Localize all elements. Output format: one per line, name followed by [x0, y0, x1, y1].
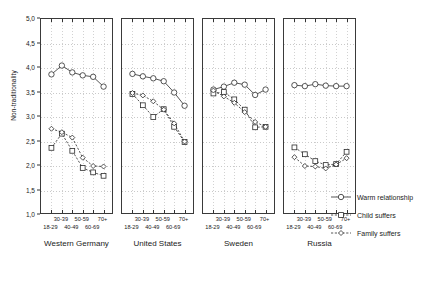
data-point-marker [49, 126, 54, 131]
x-axis-tick-label: 30-39 [135, 216, 149, 222]
legend-marker-circle-icon [330, 191, 352, 203]
data-point-marker [344, 83, 349, 88]
series-layer [41, 19, 114, 215]
series-layer [122, 19, 195, 215]
data-point-marker [292, 145, 297, 150]
data-point-marker [140, 103, 145, 108]
panel-western-germany [40, 18, 113, 214]
series-line-child-suffers [51, 134, 103, 176]
data-point-marker [49, 145, 54, 150]
data-point-marker [161, 79, 166, 84]
data-point-marker [339, 213, 344, 218]
y-axis-tick-label: 4,0 [26, 64, 35, 71]
data-point-marker [80, 73, 85, 78]
x-axis-tick-label: 70+ [260, 216, 270, 222]
legend-item: Warm relationship [330, 188, 413, 206]
x-axis-labels: 18-2930-3940-4950-5960-6970+ [202, 216, 275, 238]
legend-item: Child suffers [330, 206, 413, 224]
data-point-marker [221, 84, 226, 89]
data-point-marker [182, 103, 187, 108]
panel-united-states [121, 18, 194, 214]
data-point-marker [80, 166, 85, 171]
legend-item: Family suffers [330, 224, 413, 242]
data-point-marker [70, 70, 75, 75]
data-point-marker [344, 156, 349, 161]
data-point-marker [344, 149, 349, 154]
series-line-child-suffers [132, 94, 184, 142]
chart-legend: Warm relationshipChild suffersFamily suf… [330, 188, 413, 242]
data-point-marker [302, 164, 307, 169]
chart-figure: Non-traditionality 1,01,52,02,53,03,54,0… [0, 0, 435, 286]
x-axis-tick-label: 18-29 [205, 224, 219, 230]
x-axis-tick-label: 40-49 [64, 224, 78, 230]
panel-title: United States [121, 239, 194, 248]
data-point-marker [323, 83, 328, 88]
data-point-marker [292, 82, 297, 87]
x-axis-tick-label: 70+ [98, 216, 108, 222]
data-point-marker [313, 81, 318, 86]
plot-area [41, 19, 112, 213]
y-axis-ticks: 1,01,52,02,53,03,54,04,55,0 [16, 18, 38, 214]
x-axis-labels: 18-2930-3940-4950-5960-6970+ [121, 216, 194, 238]
panel-title: Western Germany [40, 239, 113, 248]
plot-area [284, 19, 355, 213]
data-point-marker [130, 71, 135, 76]
x-axis-tick-label: 18-29 [43, 224, 57, 230]
y-axis-tick-label: 5,0 [26, 15, 35, 22]
data-point-marker [49, 72, 54, 77]
data-point-marker [242, 82, 247, 87]
data-point-marker [90, 74, 95, 79]
series-line-family-suffers [132, 93, 184, 142]
data-point-marker [80, 155, 85, 160]
data-point-marker [292, 155, 297, 160]
x-axis-tick-label: 40-49 [145, 224, 159, 230]
legend-marker-diamond-icon [330, 227, 352, 239]
x-axis-labels: 18-2930-3940-4950-5960-6970+ [40, 216, 113, 238]
data-point-marker [59, 63, 64, 68]
x-axis-tick-label: 40-49 [307, 224, 321, 230]
data-point-marker [253, 125, 258, 130]
x-axis-tick-label: 18-29 [286, 224, 300, 230]
legend-marker-square-icon [330, 209, 352, 221]
data-point-marker [263, 87, 268, 92]
data-point-marker [338, 194, 343, 199]
data-point-marker [151, 99, 156, 104]
x-axis-tick-label: 60-69 [85, 224, 99, 230]
data-point-marker [232, 80, 237, 85]
data-point-marker [339, 231, 344, 236]
data-point-marker [91, 170, 96, 175]
legend-label: Warm relationship [357, 194, 413, 201]
plot-area [122, 19, 193, 213]
x-axis-tick-label: 30-39 [54, 216, 68, 222]
data-point-marker [252, 92, 257, 97]
x-axis-tick-label: 18-29 [124, 224, 138, 230]
panel-title: Sweden [202, 239, 275, 248]
data-point-marker [91, 164, 96, 169]
y-axis-tick-label: 1,0 [26, 211, 35, 218]
legend-label: Family suffers [357, 230, 400, 237]
panel-russia [283, 18, 356, 214]
y-axis-tick-label: 2,0 [26, 162, 35, 169]
data-point-marker [333, 83, 338, 88]
x-axis-tick-label: 30-39 [297, 216, 311, 222]
plot-area [203, 19, 274, 213]
y-axis-tick-label: 3,0 [26, 113, 35, 120]
x-axis-tick-label: 60-69 [247, 224, 261, 230]
data-point-marker [101, 164, 106, 169]
data-point-marker [302, 83, 307, 88]
data-point-marker [151, 115, 156, 120]
x-axis-tick-label: 60-69 [166, 224, 180, 230]
series-layer [203, 19, 276, 215]
data-point-marker [313, 164, 318, 169]
x-axis-tick-label: 50-59 [156, 216, 170, 222]
x-axis-tick-label: 40-49 [226, 224, 240, 230]
y-axis-tick-label: 3,5 [26, 88, 35, 95]
x-axis-tick-label: 70+ [179, 216, 189, 222]
data-point-marker [140, 74, 145, 79]
data-point-marker [101, 84, 106, 89]
data-point-marker [70, 148, 75, 153]
data-point-marker [171, 90, 176, 95]
x-axis-tick-label: 30-39 [216, 216, 230, 222]
x-axis-tick-label: 50-59 [237, 216, 251, 222]
y-axis-tick-label: 4,5 [26, 39, 35, 46]
